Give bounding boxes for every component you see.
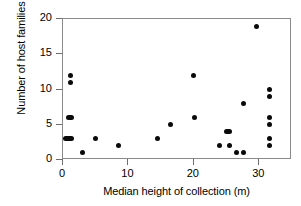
data-point [267,136,272,141]
x-axis-tick-label: 0 [47,168,77,179]
x-axis-label: Median height of collection (m) [62,185,291,197]
data-point [227,143,232,148]
y-axis-tick-label: 10 [22,83,52,94]
y-axis-tick [56,124,62,125]
y-axis-tick-label: 5 [22,118,52,129]
data-point [80,150,85,155]
x-axis-tick [193,159,194,165]
data-point [191,73,196,78]
y-axis-tick-label: 0 [22,153,52,164]
x-axis-tick-label: 10 [112,168,142,179]
data-point [68,73,73,78]
y-axis-tick [56,18,62,19]
data-point [241,150,246,155]
data-point [217,143,222,148]
data-point [93,136,98,141]
scatter-plot-figure: Number of host families 051015200102030 … [0,0,301,206]
data-point [267,115,272,120]
data-point [66,115,74,120]
y-axis-tick-label: 20 [22,12,52,23]
x-axis-tick [258,159,259,165]
data-point [267,122,272,127]
data-point [267,87,272,92]
data-point [168,122,173,127]
x-axis-tick [62,159,63,165]
x-axis-tick-label: 20 [178,168,208,179]
data-point [155,136,160,141]
data-point [63,136,74,141]
data-point [267,94,272,99]
data-point [68,80,73,85]
y-axis-tick [56,53,62,54]
x-axis-tick-label: 30 [243,168,273,179]
y-axis-tick [56,89,62,90]
data-point [192,115,197,120]
data-point [116,143,121,148]
x-axis-tick [127,159,128,165]
plot-area [62,18,291,159]
y-axis-tick-label: 15 [22,47,52,58]
data-point [241,101,246,106]
data-point [267,143,272,148]
data-point [234,150,239,155]
data-point [224,129,232,134]
data-point [254,24,259,29]
